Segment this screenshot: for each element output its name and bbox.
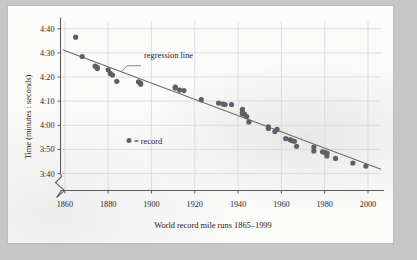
x-tick-label: 1940 xyxy=(230,200,246,209)
data-points xyxy=(73,35,368,169)
x-tick-label: 1900 xyxy=(143,200,159,209)
data-point xyxy=(73,35,78,40)
x-tick-label: 2000 xyxy=(360,200,376,209)
y-tick-label: 4:40 xyxy=(40,25,55,34)
data-point xyxy=(229,102,234,107)
data-point xyxy=(363,164,368,169)
x-tick-label: 1880 xyxy=(100,200,116,209)
y-axis-title: Time (minutes : seconds) xyxy=(24,74,33,159)
data-point xyxy=(110,73,115,78)
x-axis-title: World record mile runs 1865–1999 xyxy=(154,221,271,230)
data-point xyxy=(114,79,119,84)
data-point xyxy=(294,144,299,149)
data-point xyxy=(292,139,297,144)
data-point xyxy=(350,160,355,165)
x-tick-label: 1920 xyxy=(187,200,203,209)
regression-annotation: regression line xyxy=(121,51,193,72)
data-point xyxy=(138,82,143,87)
x-tick-label: 1960 xyxy=(273,200,289,209)
y-tick-label: 4:30 xyxy=(40,49,55,58)
axes xyxy=(56,18,385,198)
data-point xyxy=(244,114,249,119)
scatter-chart: 4:404:304:204:104:003:503:40 18601880190… xyxy=(0,0,417,260)
data-point xyxy=(311,148,316,153)
y-axis-break-zigzag xyxy=(56,174,65,198)
horizontal-gridlines xyxy=(61,29,382,174)
x-tick-label: 1860 xyxy=(57,200,73,209)
data-point xyxy=(324,153,329,158)
data-point xyxy=(216,101,221,106)
data-point xyxy=(283,136,288,141)
y-tick-label: 4:00 xyxy=(40,121,55,130)
legend-record-label: = record xyxy=(134,137,163,146)
data-point xyxy=(246,119,251,124)
legend: = record xyxy=(127,137,164,146)
data-point xyxy=(95,66,100,71)
legend-record-marker xyxy=(127,138,132,143)
data-point xyxy=(222,102,227,107)
vertical-gridlines xyxy=(65,22,368,191)
chart-canvas: 4:404:304:204:104:003:503:40 18601880190… xyxy=(0,0,417,260)
data-point xyxy=(333,156,338,161)
regression-leader-line xyxy=(121,66,141,72)
y-tick-label: 4:20 xyxy=(40,73,55,82)
figure-background: 4:404:304:204:104:003:503:40 18601880190… xyxy=(0,0,417,260)
data-point xyxy=(80,54,85,59)
regression-line-label: regression line xyxy=(144,51,193,60)
y-tick-label: 3:50 xyxy=(40,145,55,154)
data-point xyxy=(199,97,204,102)
y-tick-label: 4:10 xyxy=(40,97,55,106)
y-axis-tick-labels: 4:404:304:204:104:003:503:40 xyxy=(40,25,55,179)
data-point xyxy=(266,126,271,131)
data-point xyxy=(181,88,186,93)
regression-line xyxy=(63,50,381,170)
x-axis-tick-labels: 18601880190019201940196019802000 xyxy=(57,200,377,209)
y-tick-label: 3:40 xyxy=(40,170,55,179)
x-tick-label: 1980 xyxy=(317,200,333,209)
data-point xyxy=(274,127,279,132)
